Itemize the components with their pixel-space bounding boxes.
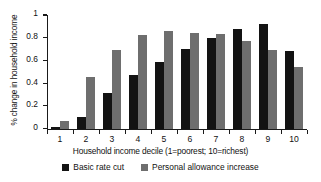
y-tick-label: 1 [33, 8, 38, 18]
bar [190, 33, 198, 129]
bar [259, 24, 267, 129]
bar-group: 2 [73, 15, 99, 129]
legend-swatch-icon [62, 164, 69, 171]
bar-group: 7 [203, 15, 229, 129]
legend-item: Basic rate cut [62, 163, 124, 171]
bar [268, 50, 276, 129]
y-tick-label: 0 [33, 122, 38, 132]
bar-group: 3 [99, 15, 125, 129]
bar-group: 4 [125, 15, 151, 129]
x-tick-label: 7 [203, 134, 229, 144]
bar-group: 5 [151, 15, 177, 129]
y-tick-label: 0.6 [26, 54, 38, 64]
bar-group: 8 [229, 15, 255, 129]
bar [51, 127, 59, 128]
bar [216, 34, 224, 129]
bar [138, 35, 146, 129]
bar [207, 38, 215, 129]
x-tick-label: 2 [73, 134, 99, 144]
bar-group: 10 [281, 15, 307, 129]
y-axis-title: % change in household income [10, 5, 24, 135]
bar [155, 62, 163, 129]
bar [77, 117, 85, 128]
legend-swatch-icon [141, 164, 148, 171]
bar [181, 49, 189, 129]
bar [103, 93, 111, 128]
bar [112, 50, 120, 129]
y-tick-label: 0.2 [26, 99, 38, 109]
bar [164, 31, 172, 128]
bar-group: 9 [255, 15, 281, 129]
bar [60, 121, 68, 128]
x-tick-label: 9 [255, 134, 281, 144]
bar [129, 75, 137, 128]
x-tick-label: 5 [151, 134, 177, 144]
x-tick-label: 10 [281, 134, 307, 144]
chart-figure: % change in household income 00.20.40.60… [0, 0, 321, 182]
bar [233, 29, 241, 128]
legend-label: Basic rate cut [73, 163, 124, 171]
bar [86, 77, 94, 129]
chart-legend: Basic rate cutPersonal allowance increas… [0, 163, 321, 171]
bar-group: 6 [177, 15, 203, 129]
legend-label: Personal allowance increase [152, 163, 259, 171]
y-tick-label: 0.8 [26, 31, 38, 41]
x-tick [307, 130, 308, 134]
legend-item: Personal allowance increase [141, 163, 259, 171]
plot-area: 00.20.40.60.81 12345678910 [47, 15, 307, 130]
x-tick-label: 8 [229, 134, 255, 144]
x-tick-label: 1 [47, 134, 73, 144]
bar [242, 41, 250, 128]
x-tick-label: 3 [99, 134, 125, 144]
bar [285, 51, 293, 129]
bar [294, 67, 302, 129]
x-tick-label: 6 [177, 134, 203, 144]
x-axis-title: Household income decile (1=poorest; 10=r… [0, 146, 321, 156]
y-tick-label: 0.4 [26, 77, 38, 87]
bar-group: 1 [47, 15, 73, 129]
x-tick-label: 4 [125, 134, 151, 144]
